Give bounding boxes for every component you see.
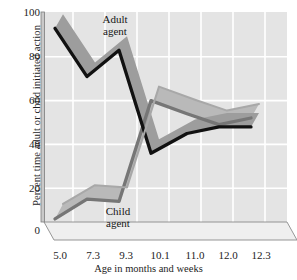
child-agent-label-line1: Child [95, 205, 141, 217]
adult-agent-label: Adult agent [92, 13, 138, 37]
x-tick-10-1: 10.1 [140, 249, 180, 261]
adult-agent-label-line2: agent [92, 25, 138, 37]
child-agent-label: Child agent [95, 205, 141, 229]
chart-figure: 100 80 60 40 20 0 Percent time adult or … [0, 0, 297, 280]
x-axis-ticks: 5.0 7.3 9.3 10.1 11.0 12.0 12.3 [0, 0, 297, 280]
x-tick-12-3: 12.3 [241, 249, 281, 261]
x-axis-label: Age in months and weeks [0, 263, 297, 274]
adult-agent-label-line1: Adult [92, 13, 138, 25]
child-agent-label-line2: agent [95, 217, 141, 229]
